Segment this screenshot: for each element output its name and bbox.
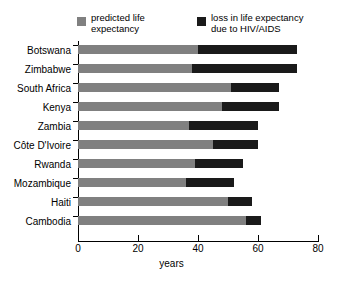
x-tick-40 <box>198 235 199 241</box>
bar-segment-loss-mozambique <box>186 178 234 187</box>
bar-segment-loss-rwanda <box>195 159 243 168</box>
y-tick-label-botswana: Botswana <box>27 45 71 56</box>
x-tick-0 <box>78 235 79 241</box>
bar-segment-predicted-rwanda <box>78 159 195 168</box>
bar-segment-loss-kenya <box>222 102 279 111</box>
y-tick-label-kenya: Kenya <box>43 102 71 113</box>
y-tick-label-mozambique: Mozambique <box>14 178 71 189</box>
bar-segment-loss-south-africa <box>231 83 279 92</box>
x-tick-label-0: 0 <box>63 243 93 255</box>
bar-segment-predicted-south-africa <box>78 83 231 92</box>
bar-segment-predicted-mozambique <box>78 178 186 187</box>
y-tick-label-zimbabwe: Zimbabwe <box>25 64 71 75</box>
x-tick-60 <box>258 235 259 241</box>
bar-segment-predicted-zambia <box>78 121 189 130</box>
y-tick-label-cote-divoire: Côte D'Ivoire <box>14 140 72 151</box>
x-axis-label: years <box>0 258 343 269</box>
life-expectancy-bar-chart: predicted life expectancy loss in life e… <box>0 0 343 282</box>
y-tick-label-south-africa: South Africa <box>17 83 71 94</box>
bar-segment-predicted-c-te-d-ivoire <box>78 140 213 149</box>
bar-segment-predicted-zimbabwe <box>78 64 192 73</box>
plot-area: 0 20 40 60 80 years Botswana Zimbabwe So… <box>0 0 343 282</box>
x-tick-label-80: 80 <box>303 243 333 255</box>
y-tick-label-haiti: Haiti <box>51 197 71 208</box>
bar-segment-loss-c-te-d-ivoire <box>213 140 258 149</box>
bar-segment-predicted-kenya <box>78 102 222 111</box>
x-tick-20 <box>138 235 139 241</box>
bar-segment-predicted-haiti <box>78 197 228 206</box>
y-tick-label-cambodia: Cambodia <box>25 216 71 227</box>
y-tick-label-zambia: Zambia <box>38 121 71 132</box>
bar-segment-predicted-cambodia <box>78 216 246 225</box>
bar-segment-loss-zimbabwe <box>192 64 297 73</box>
y-tick-label-rwanda: Rwanda <box>34 159 71 170</box>
bar-segment-loss-cambodia <box>246 216 261 225</box>
x-tick-label-40: 40 <box>183 243 213 255</box>
x-tick-label-60: 60 <box>243 243 273 255</box>
bar-segment-loss-botswana <box>198 45 297 54</box>
x-tick-label-20: 20 <box>123 243 153 255</box>
bar-segment-loss-haiti <box>228 197 252 206</box>
x-tick-80 <box>318 235 319 241</box>
bar-segment-predicted-botswana <box>78 45 198 54</box>
x-axis-line <box>78 241 319 242</box>
bar-segment-loss-zambia <box>189 121 258 130</box>
